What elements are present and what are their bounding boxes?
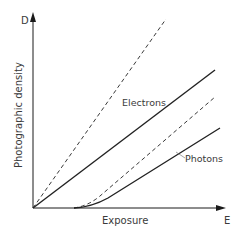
x-axis-title: Exposure	[102, 215, 148, 226]
x-axis-symbol: E	[224, 215, 230, 226]
y-axis-title: Photographic density	[13, 62, 24, 168]
chart-canvas: D E Exposure Photographic density Electr…	[0, 0, 244, 234]
series	[33, 19, 220, 208]
photons-solid-line	[74, 128, 220, 208]
photons-label: Photons	[185, 153, 223, 164]
y-axis-symbol: D	[21, 15, 29, 26]
electrons-dashed-line	[33, 19, 166, 208]
y-axis-arrow-icon	[30, 12, 36, 22]
axes	[30, 12, 226, 211]
chart-svg: D E Exposure Photographic density Electr…	[0, 0, 244, 234]
electrons-label: Electrons	[122, 97, 166, 108]
x-axis-arrow-icon	[216, 205, 226, 211]
